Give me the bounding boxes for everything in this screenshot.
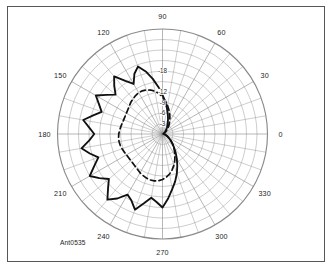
angle-tick-label-180: 180 [38, 130, 51, 139]
angle-tick-label-30: 30 [260, 71, 268, 80]
angle-tick-label-120: 120 [97, 27, 110, 36]
angle-tick-label-240: 240 [97, 232, 110, 241]
angle-tick-label-90: 90 [158, 12, 166, 21]
angle-tick-label-210: 210 [54, 189, 67, 198]
angle-tick-label-150: 150 [54, 71, 67, 80]
angle-tick-label-270: 270 [156, 248, 169, 257]
radial-tick-label-2: -9 [159, 99, 166, 105]
angle-tick-label-300: 300 [215, 232, 228, 241]
polar-pattern-figure: 0306090120150180210240270300330-3-6-9-12… [0, 0, 334, 270]
angle-tick-label-60: 60 [217, 27, 225, 36]
radial-tick-label-1: -6 [159, 110, 166, 116]
angle-tick-label-0: 0 [278, 130, 282, 139]
angle-tick-label-330: 330 [258, 189, 271, 198]
figure-identifier: Ant0535 [60, 239, 86, 246]
radial-tick-label-0: -3 [159, 120, 166, 126]
radial-tick-label-3: -12 [157, 89, 167, 95]
radial-tick-label-4: -18 [157, 68, 167, 74]
